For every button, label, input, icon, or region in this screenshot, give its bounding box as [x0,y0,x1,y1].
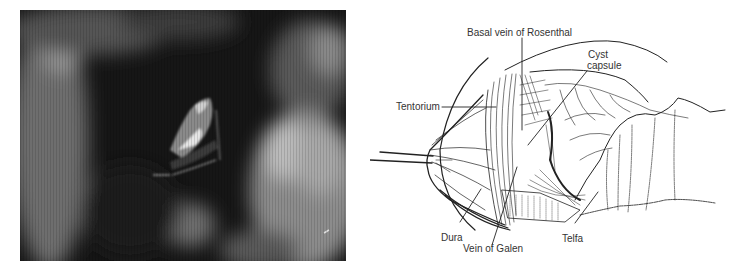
label-dura: Dura [441,232,463,243]
label-tentorium: Tentorium [396,101,440,112]
label-vein-of-galen: Vein of Galen [463,243,523,254]
label-telfa: Telfa [562,233,583,244]
label-cyst: Cyst [588,49,608,60]
anatomical-illustration: Basal vein of Rosenthal Cyst capsule Ten… [370,0,739,270]
intraoperative-photo [20,10,346,261]
label-capsule: capsule [587,60,621,71]
label-basal-vein-of-rosenthal: Basal vein of Rosenthal [467,27,572,38]
